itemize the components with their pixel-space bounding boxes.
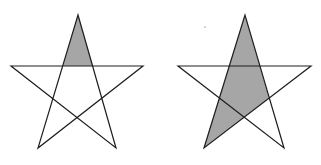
right-star-shaded-region [204, 15, 269, 148]
right-star [178, 15, 311, 148]
left-star [11, 15, 143, 148]
speck-mark [204, 26, 205, 27]
left-star-shaded-region [63, 15, 93, 66]
two-stars-figure [0, 0, 321, 165]
